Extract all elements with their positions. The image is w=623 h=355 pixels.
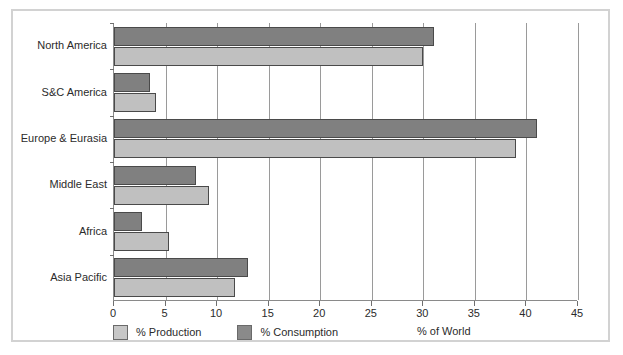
- bar-production: [114, 47, 423, 66]
- x-axis-tick-label: 10: [210, 307, 222, 319]
- x-axis-tick: [113, 301, 114, 306]
- y-axis-tick: [110, 116, 114, 117]
- x-axis-tick-label: 20: [313, 307, 325, 319]
- gridline: [526, 23, 527, 300]
- bar-production: [114, 278, 235, 297]
- legend-item: % Consumption: [237, 325, 338, 340]
- plot-area: [113, 23, 577, 301]
- bar-consumption: [114, 258, 248, 277]
- bar-production: [114, 186, 209, 205]
- x-axis-tick: [525, 301, 526, 306]
- y-axis-label: North America: [11, 39, 107, 51]
- y-axis-label: Africa: [11, 225, 107, 237]
- y-axis-tick: [110, 23, 114, 24]
- y-axis-tick: [110, 69, 114, 70]
- legend-swatch-icon: [113, 325, 128, 340]
- x-axis-tick-label: 0: [110, 307, 116, 319]
- legend-label: % Consumption: [260, 326, 338, 338]
- gridline: [578, 23, 579, 300]
- bar-consumption: [114, 212, 142, 231]
- chart-frame: North AmericaS&C AmericaEurope & Eurasia…: [11, 9, 610, 342]
- y-axis-label: Middle East: [11, 178, 107, 190]
- bar-production: [114, 93, 156, 112]
- x-axis-tick-label: 25: [365, 307, 377, 319]
- y-axis-category-labels: North AmericaS&C AmericaEurope & Eurasia…: [13, 23, 107, 301]
- x-axis-tick-label: 35: [468, 307, 480, 319]
- x-axis-tick: [268, 301, 269, 306]
- y-axis-label: Europe & Eurasia: [11, 132, 107, 144]
- bar-consumption: [114, 73, 150, 92]
- y-axis-label: S&C America: [11, 86, 107, 98]
- bar-consumption: [114, 119, 537, 138]
- bar-consumption: [114, 27, 434, 46]
- x-axis-tick-label: 30: [416, 307, 428, 319]
- x-axis-tick: [319, 301, 320, 306]
- y-axis-tick: [110, 208, 114, 209]
- bar-production: [114, 139, 516, 158]
- y-axis-label: Asia Pacific: [11, 271, 107, 283]
- x-axis-tick-label: 5: [161, 307, 167, 319]
- x-axis-tick: [216, 301, 217, 306]
- y-axis-tick: [110, 255, 114, 256]
- x-axis-tick-label: 45: [571, 307, 583, 319]
- x-axis-tick-label: 40: [519, 307, 531, 319]
- y-axis-tick: [110, 162, 114, 163]
- legend-item: % Production: [113, 325, 201, 340]
- x-axis-tick: [165, 301, 166, 306]
- bar-consumption: [114, 166, 196, 185]
- x-axis-title: % of World: [417, 325, 471, 337]
- x-axis-tick: [422, 301, 423, 306]
- x-axis-tick: [474, 301, 475, 306]
- gridline: [423, 23, 424, 300]
- gridline: [475, 23, 476, 300]
- bar-production: [114, 232, 169, 251]
- x-axis-tick: [371, 301, 372, 306]
- x-axis-tick: [577, 301, 578, 306]
- legend-label: % Production: [136, 326, 201, 338]
- x-axis-tick-label: 15: [262, 307, 274, 319]
- chart-legend: % Production% Consumption: [113, 323, 374, 341]
- x-axis: 051015202530354045: [113, 301, 578, 323]
- legend-swatch-icon: [237, 325, 252, 340]
